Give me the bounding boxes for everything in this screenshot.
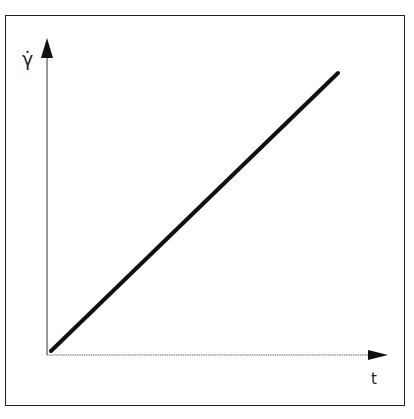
x-axis [47, 350, 388, 360]
y-axis-label: γ̇ [22, 48, 33, 70]
y-axis-arrow-icon [41, 38, 53, 58]
data-line [51, 73, 338, 351]
chart-plot [0, 0, 414, 419]
x-axis-arrow-icon [368, 350, 388, 360]
y-axis [41, 38, 53, 355]
x-axis-label: t [371, 370, 377, 388]
